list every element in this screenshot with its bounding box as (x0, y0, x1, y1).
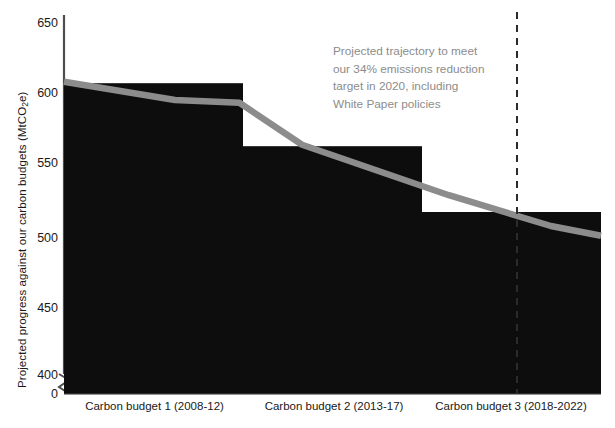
x-axis-tick-labels: Carbon budget 1 (2008-12) Carbon budget … (62, 400, 602, 420)
annotation-line-1: Projected trajectory to meet (333, 43, 515, 61)
bar-carbon-budget-1[interactable] (64, 83, 243, 393)
bar-carbon-budget-3[interactable] (422, 212, 601, 393)
x-tick-carbon-budget-2: Carbon budget 2 (2013-17) (248, 400, 420, 412)
trajectory-annotation: Projected trajectory to meet our 34% emi… (333, 43, 515, 113)
x-tick-carbon-budget-3: Carbon budget 3 (2018-2022) (420, 400, 602, 412)
chart-container: Projected progress against our carbon bu… (0, 0, 615, 428)
annotation-line-4: White Paper policies (333, 96, 515, 114)
x-tick-carbon-budget-1: Carbon budget 1 (2008-12) (62, 400, 247, 412)
annotation-line-2: our 34% emissions reduction (333, 61, 515, 79)
plot-area (0, 0, 615, 428)
annotation-line-3: target in 2020, including (333, 78, 515, 96)
bar-carbon-budget-2[interactable] (243, 146, 422, 393)
